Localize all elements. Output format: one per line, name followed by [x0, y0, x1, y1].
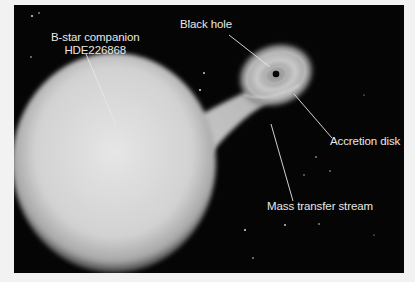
label-b-star-line2: HDE226868: [51, 44, 140, 57]
label-b-star-companion: B-star companion HDE226868: [51, 31, 140, 57]
label-mass-transfer-stream: Mass transfer stream: [267, 200, 373, 213]
label-b-star-line1: B-star companion: [51, 31, 140, 44]
b-star-companion: [14, 53, 216, 273]
black-hole: [273, 71, 280, 78]
label-accretion-disk: Accretion disk: [330, 135, 400, 148]
astronomy-illustration: B-star companion HDE226868 Black hole Ac…: [14, 5, 404, 273]
label-black-hole: Black hole: [180, 18, 232, 31]
